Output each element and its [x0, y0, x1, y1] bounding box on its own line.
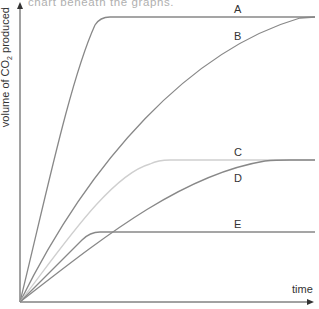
x-axis-arrow-icon [307, 299, 314, 305]
chart-plot [0, 0, 319, 309]
x-axis-label: time [292, 283, 313, 295]
label-d: D [234, 172, 242, 184]
y-axis-arrow-icon [17, 2, 23, 9]
label-b: B [234, 30, 241, 42]
label-a: A [234, 3, 241, 15]
curve-d [20, 160, 315, 302]
curve-c [20, 160, 315, 302]
label-e: E [234, 218, 241, 230]
label-c: C [234, 146, 242, 158]
